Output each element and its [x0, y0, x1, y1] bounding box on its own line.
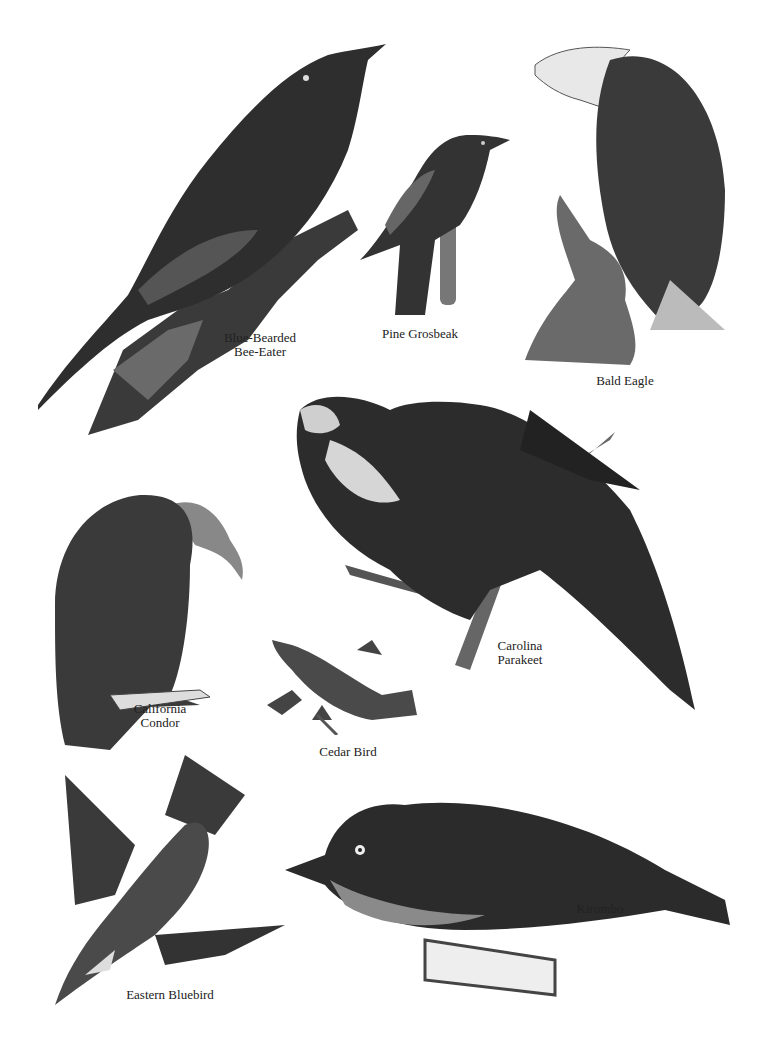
illustration-cedar-bird [262, 635, 420, 735]
bird-plate: Blue-Bearded Bee-Eater Pine Grosbeak Bal… [0, 0, 762, 1049]
illustration-pine-grosbeak [355, 75, 515, 315]
illustration-eastern-bluebird [55, 755, 290, 1005]
caption-pine-grosbeak: Pine Grosbeak [370, 327, 470, 341]
illustration-kirombo [285, 790, 735, 1000]
caption-cedar-bird: Cedar Bird [303, 745, 393, 759]
illustration-bald-eagle [520, 40, 730, 370]
caption-california-condor: California Condor [115, 702, 205, 730]
illustration-blue-bearded-bee-eater [28, 40, 388, 440]
caption-blue-bearded-bee-eater: Blue-Bearded Bee-Eater [215, 331, 305, 359]
caption-eastern-bluebird: Eastern Bluebird [110, 988, 230, 1002]
caption-kirombo: Kirombo [565, 902, 635, 916]
caption-bald-eagle: Bald Eagle [580, 374, 670, 388]
caption-carolina-parakeet: Carolina Parakeet [485, 639, 555, 667]
